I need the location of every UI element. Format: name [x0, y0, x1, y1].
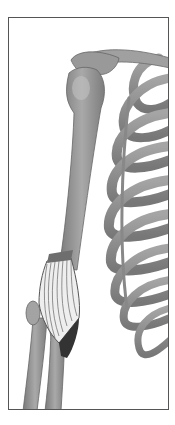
rib-cage — [109, 58, 169, 355]
illustration-frame — [8, 17, 169, 410]
elbow-condyle — [26, 301, 40, 325]
anatomy-illustration — [9, 18, 169, 410]
radius — [23, 318, 47, 410]
